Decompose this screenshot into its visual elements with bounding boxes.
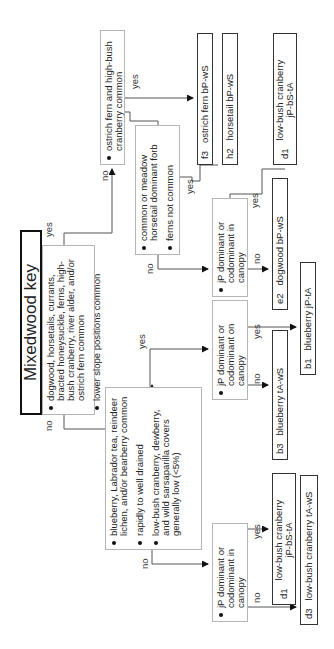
jp-canopy-question-top: jP dominant or codominant in canopy (212, 198, 248, 297)
criterion: ostrich fern and high-bush cranberry com… (104, 35, 124, 151)
result-b1: b1 blueberry jP-tA (300, 262, 316, 375)
root-criteria-box: dogwood, horsetails, currants, bracted h… (42, 245, 95, 415)
edge-label-no: no (252, 592, 262, 603)
result-code: d1 (280, 148, 290, 159)
criterion: low-bush cranberry, dewberry, and wild s… (151, 392, 181, 536)
criterion: blueberry, Labrador tea, reindeer lichen… (109, 392, 129, 536)
result-h2: h2 horsetail bP-wS (222, 33, 238, 165)
result-code: b1 (303, 358, 313, 369)
criterion: jP dominant or codominant in canopy (216, 528, 246, 608)
ostrich-fern-question: ostrich fern and high-bush cranberry com… (100, 30, 125, 165)
result-label: jP-bS-tA (283, 522, 294, 557)
result-d1-top: d1 low-bush cranberryjP-bS-tA (273, 33, 297, 165)
result-code: d1 (279, 588, 289, 599)
result-label: horsetail bP-wS (225, 74, 235, 141)
result-code: h2 (225, 148, 235, 159)
criterion: rapidly to well drained (135, 392, 145, 536)
result-code: f3 (200, 151, 210, 159)
edge-label-yes: yes (137, 334, 147, 349)
edge-label-no: no (140, 558, 150, 569)
result-f3: f3 ostrich fern bP-wS (197, 33, 213, 165)
edge-label-yes: yes (185, 179, 195, 194)
result-e2: e2 dogwood bP-wS (272, 178, 288, 310)
edge-label-no: no (252, 253, 262, 264)
mixedwood-key-diagram: Mixedwood key dogwood, horsetails, curra… (0, 0, 334, 649)
result-code: b3 (275, 443, 285, 454)
blueberry-question: blueberry, Labrador tea, reindeer lichen… (105, 387, 202, 550)
result-label: jP-bS-tA (284, 82, 295, 117)
title-text: Mixedwood key (22, 264, 40, 381)
edge-label-yes: yes (130, 74, 140, 89)
root-criterion: lower slope positions common (92, 250, 102, 401)
result-code: d3 (304, 608, 314, 619)
jp-canopy-question-bottom: jP dominant or codominant in canopy (212, 523, 248, 622)
result-d3: d3 low-bush cranberry tA-wS (300, 475, 318, 625)
result-label: dogwood bP-wS (275, 216, 285, 285)
horsetail-question: common or meadow horsetail dominant forb… (135, 125, 180, 255)
result-d1-bottom: d1 low-bush cranberryjP-bS-tA (272, 473, 296, 605)
criterion: jP dominant or codominant on canopy (216, 305, 246, 386)
edge-label-yes: yes (250, 193, 260, 208)
jp-canopy-question-mid: jP dominant or codominant on canopy (212, 300, 248, 400)
edge-label-no: no (100, 170, 110, 181)
criterion: ferns not common (165, 130, 175, 241)
edge-label-yes: yes (252, 524, 262, 539)
result-b3: b3 blueberry tA-wS (272, 330, 288, 460)
edge-label-yes: yes (252, 324, 262, 339)
edge-label-no: no (252, 373, 262, 384)
diagram-title: Mixedwood key (20, 230, 42, 415)
result-label: blueberry tA-wS (275, 368, 285, 436)
criterion: jP dominant or codominant in canopy (216, 203, 246, 283)
result-label: ostrich fern bP-wS (200, 65, 210, 143)
edge-label-no: no (44, 420, 54, 431)
result-label: blueberry jP-tA (303, 288, 313, 351)
edge-label-no: no (145, 263, 155, 274)
result-label: low-bush cranberry tA-wS (304, 492, 314, 601)
criterion: common or meadow horsetail dominant forb (139, 130, 159, 241)
result-code: e2 (275, 293, 285, 304)
root-criterion: dogwood, horsetails, currants, bracted h… (46, 250, 86, 401)
edge-label-yes: yes (44, 222, 54, 237)
